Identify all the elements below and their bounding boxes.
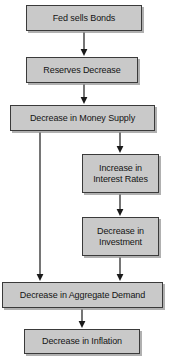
- node-label: Reserves Decrease: [29, 65, 135, 76]
- arrow-head-icon: [81, 97, 88, 104]
- arrow-head-icon: [81, 49, 88, 56]
- node-label: Decrease in Aggregate Demand: [5, 290, 160, 301]
- node-label: Decrease in Investment: [85, 226, 156, 248]
- arrow-money-supply-to-interest-rates: [117, 132, 124, 153]
- node-label: Decrease in Inflation: [27, 336, 137, 347]
- arrow-head-icon: [117, 274, 124, 281]
- arrow-investment-to-aggregate-demand: [117, 257, 124, 281]
- node-label: Fed sells Bonds: [29, 13, 139, 24]
- arrow-money-supply-to-aggregate-demand: [37, 132, 44, 281]
- node-decrease-in-aggregate-demand[interactable]: Decrease in Aggregate Demand: [2, 282, 163, 308]
- node-decrease-in-money-supply[interactable]: Decrease in Money Supply: [10, 105, 155, 131]
- arrow-aggregate-demand-to-inflation: [79, 309, 86, 328]
- arrow-head-icon: [117, 146, 124, 153]
- flowchart-canvas: Fed sells BondsReserves DecreaseDecrease…: [0, 0, 171, 357]
- arrow-reserves-to-money-supply: [81, 84, 88, 104]
- arrow-bonds-to-reserves: [81, 32, 88, 56]
- arrow-head-icon: [117, 209, 124, 216]
- node-label: Increase in Interest Rates: [85, 163, 156, 185]
- node-fed-sells-bonds[interactable]: Fed sells Bonds: [26, 5, 142, 31]
- node-increase-in-interest-rates[interactable]: Increase in Interest Rates: [82, 154, 159, 193]
- arrow-head-icon: [79, 321, 86, 328]
- node-reserves-decrease[interactable]: Reserves Decrease: [26, 57, 138, 83]
- node-label: Decrease in Money Supply: [13, 113, 152, 124]
- arrow-interest-rates-to-investment: [117, 194, 124, 216]
- node-decrease-in-investment[interactable]: Decrease in Investment: [82, 217, 159, 256]
- arrow-head-icon: [37, 274, 44, 281]
- node-decrease-in-inflation[interactable]: Decrease in Inflation: [24, 329, 140, 354]
